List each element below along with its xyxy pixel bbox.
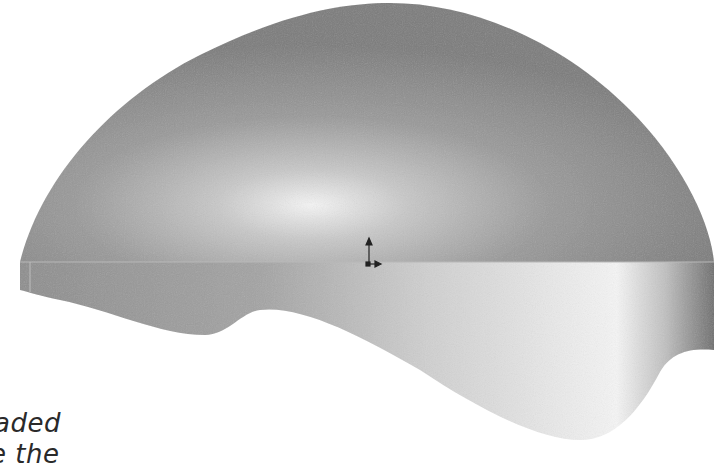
caption-text-line-2: e the — [0, 441, 59, 467]
caption-text-line-1: aded — [0, 410, 61, 436]
lower-band-surface — [20, 262, 714, 440]
dome-surface — [20, 3, 714, 262]
